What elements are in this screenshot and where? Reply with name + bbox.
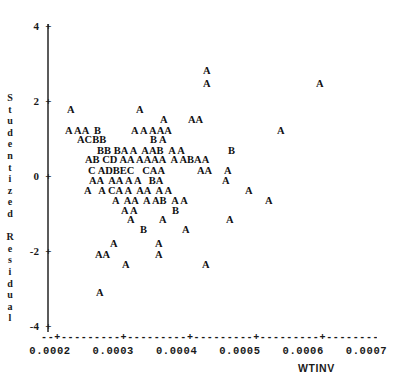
- data-point-symbol: A: [202, 260, 210, 270]
- data-point-symbol: A: [245, 186, 253, 196]
- data-point-symbol: A: [222, 176, 230, 186]
- data-point-symbol: AA: [95, 250, 110, 260]
- data-point-symbol: A: [110, 239, 118, 249]
- data-point-symbol: B: [172, 206, 179, 216]
- data-point-symbol: A: [203, 66, 211, 76]
- data-point-symbol: A: [226, 215, 234, 225]
- data-point-symbol: AA: [197, 166, 212, 176]
- data-marks-layer: AAAAAAAAA AA BA A AAAAACBBB ABB BA A AAB…: [0, 0, 396, 375]
- data-point-symbol: ACBB: [77, 135, 106, 145]
- scatter-plot-figure: Studentized.Residual +4+2+0+-2+-4 --+---…: [0, 0, 396, 375]
- data-point-symbol: B A: [150, 135, 167, 145]
- data-point-symbol: A: [136, 105, 144, 115]
- data-point-symbol: A: [122, 260, 130, 270]
- data-point-symbol: A: [203, 79, 211, 89]
- data-point-symbol: A: [67, 105, 75, 115]
- data-point-symbol: A: [182, 225, 190, 235]
- data-point-symbol: AA: [188, 115, 203, 125]
- data-point-symbol: AA AA A A BA: [89, 176, 163, 186]
- data-point-symbol: A: [159, 215, 167, 225]
- data-point-symbol: A: [316, 79, 324, 89]
- data-point-symbol: A: [96, 288, 104, 298]
- data-point-symbol: B: [140, 225, 147, 235]
- data-point-symbol: A: [155, 239, 163, 249]
- data-point-symbol: AB CD AA AAAA A ABAA: [85, 155, 209, 165]
- data-point-symbol: A: [127, 215, 135, 225]
- data-point-symbol: A: [155, 250, 163, 260]
- data-point-symbol: B: [228, 146, 235, 156]
- data-point-symbol: A: [265, 196, 273, 206]
- data-point-symbol: A: [160, 115, 168, 125]
- data-point-symbol: A: [277, 126, 285, 136]
